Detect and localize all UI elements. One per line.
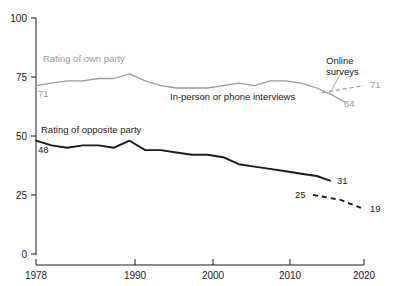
line-chart: 100 75 50 25 0 1978 1990 2000 2010 2020 … [0,0,395,286]
point-label-opposite-start: 48 [38,144,49,155]
chart-container: 100 75 50 25 0 1978 1990 2000 2010 2020 … [0,0,395,286]
y-axis-label-25: 25 [16,190,28,201]
x-axis-label-1990: 1990 [124,270,147,281]
annotation-own-party: Rating of own party [43,53,125,64]
x-axis-label-2000: 2000 [202,270,225,281]
annotation-interviews: In-person or phone interviews [170,91,295,102]
point-label-opposite-end: 31 [337,175,348,186]
x-axis-label-2020: 2020 [353,270,376,281]
y-axis-label-50: 50 [16,131,28,142]
y-axis-label-0: 0 [21,249,27,260]
y-axis-label-100: 100 [10,13,27,24]
point-label-own-online: 71 [370,79,381,90]
y-axis-label-75: 75 [16,72,28,83]
series-own-party-online-dashed [322,86,364,93]
point-label-opposite-online-start: 25 [295,189,306,200]
annotation-opposite-party: Rating of opposite party [41,124,142,135]
series-opposite-party-solid [36,141,330,181]
annotation-online-surveys-line2: surveys [326,66,359,77]
x-axis-label-2010: 2010 [279,270,302,281]
point-label-own-start: 71 [38,88,49,99]
point-label-opposite-online-end: 19 [370,203,381,214]
series-opposite-party-online-dashed [313,195,364,209]
x-axis-label-1978: 1978 [25,270,48,281]
point-label-own-end: 64 [344,98,355,109]
annotation-online-surveys-line1: Online [326,55,353,66]
